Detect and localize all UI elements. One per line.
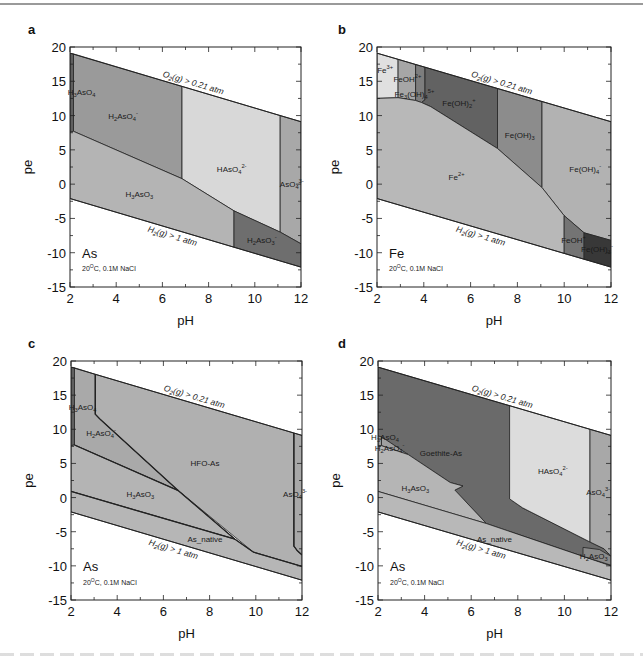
conditions-label: 20OC, 0.1M NaCl: [82, 263, 136, 272]
y-tick-label: 15: [360, 388, 374, 403]
y-tick-label: 5: [60, 456, 67, 471]
region-label: Fe(OH)3: [505, 131, 535, 141]
y-tick-label: -10: [47, 246, 66, 261]
y-tick-label: -5: [361, 211, 373, 226]
panel-label: c: [28, 336, 35, 351]
y-tick-label: 15: [52, 74, 66, 89]
y-axis-label: pe: [20, 160, 35, 174]
y-tick-label: -15: [355, 593, 374, 608]
y-tick-label: -15: [354, 280, 373, 295]
y-tick-label: -5: [55, 525, 67, 540]
y-tick-label: 0: [60, 491, 67, 506]
x-tick-label: 8: [514, 604, 521, 619]
y-tick-label: -10: [354, 246, 373, 261]
region-label: Goethite-As: [420, 449, 462, 458]
y-tick-label: 15: [359, 74, 373, 89]
y-tick-label: 20: [360, 354, 374, 369]
panel-b: bFe3+FeOH2+Fe3(OH)45+Fe(OH)2+Fe(OH)3Fe(O…: [310, 20, 631, 335]
region-label: AsO43-: [283, 488, 307, 500]
region-label: H3AsO3: [125, 190, 153, 200]
x-tick-label: 4: [113, 291, 120, 306]
pourbaix-diagram-a: aH3AsO4H2AsO4-HAsO42-AsO43-H3AsO3H2AsO3-…: [0, 20, 321, 335]
x-tick-label: 6: [467, 291, 474, 306]
y-tick-label: -10: [48, 559, 67, 574]
x-tick-label: 4: [421, 604, 428, 619]
pourbaix-diagram-c: cH3AsO4H2AsO4-HFO-AsAsO43-H3AsO3As_nativ…: [0, 334, 321, 649]
x-tick-label: 2: [373, 291, 380, 306]
y-tick-label: -15: [47, 280, 66, 295]
y-tick-label: 20: [52, 40, 66, 55]
x-axis-label: pH: [178, 626, 195, 641]
y-tick-label: 20: [53, 354, 67, 369]
y-tick-label: 10: [53, 422, 67, 437]
y-tick-label: 0: [59, 177, 66, 192]
x-tick-label: 12: [295, 604, 309, 619]
y-tick-label: 5: [59, 143, 66, 158]
region-label: As_native: [187, 535, 223, 544]
y-tick-label: -15: [48, 593, 67, 608]
region-label: H3AsO3: [401, 484, 429, 494]
y-tick-label: 5: [366, 143, 373, 158]
y-tick-label: -10: [355, 559, 374, 574]
panel-label: a: [28, 22, 36, 37]
element-label: As: [82, 246, 98, 261]
x-tick-label: 2: [66, 291, 73, 306]
conditions-label: 20OC, 0.1M NaCl: [390, 577, 444, 586]
x-tick-label: 2: [67, 604, 74, 619]
top-rule: [0, 3, 643, 5]
panel-d: dGoethite-AsHAsO42-AsO43-H3AsO4H2AsO4-H3…: [310, 334, 631, 649]
pourbaix-diagram-b: bFe3+FeOH2+Fe3(OH)45+Fe(OH)2+Fe(OH)3Fe(O…: [310, 20, 631, 335]
y-tick-label: 10: [52, 109, 66, 124]
x-tick-label: 12: [604, 604, 618, 619]
region-label: HFO-As: [191, 459, 220, 468]
x-tick-label: 8: [205, 291, 212, 306]
region-label: H3AsO4: [68, 88, 97, 98]
y-tick-label: 20: [359, 40, 373, 55]
conditions-label: 20OC, 0.1M NaCl: [389, 263, 443, 272]
y-tick-label: 5: [367, 456, 374, 471]
panel-label: b: [338, 22, 346, 37]
y-tick-label: 0: [367, 491, 374, 506]
x-tick-label: 4: [114, 604, 121, 619]
figure-caption-truncated: [0, 650, 643, 656]
x-tick-label: 2: [374, 604, 381, 619]
x-tick-label: 10: [557, 604, 571, 619]
x-tick-label: 12: [604, 291, 618, 306]
y-axis-label: pe: [328, 473, 343, 487]
x-axis-label: pH: [486, 626, 503, 641]
x-tick-label: 4: [420, 291, 427, 306]
x-tick-label: 10: [248, 291, 262, 306]
panel-c: cH3AsO4H2AsO4-HFO-AsAsO43-H3AsO3As_nativ…: [0, 334, 321, 649]
y-tick-label: 0: [366, 177, 373, 192]
y-axis-label: pe: [21, 473, 36, 487]
y-tick-label: 10: [359, 109, 373, 124]
panel-a: aH3AsO4H2AsO4-HAsO42-AsO43-H3AsO3H2AsO3-…: [0, 20, 321, 335]
x-tick-label: 8: [514, 291, 521, 306]
x-tick-label: 10: [557, 291, 571, 306]
y-tick-label: -5: [362, 525, 374, 540]
x-tick-label: 10: [249, 604, 263, 619]
panel-label: d: [338, 336, 346, 351]
x-tick-label: 6: [468, 604, 475, 619]
region-label: As_native: [477, 535, 513, 544]
region-label: H3AsO4: [371, 433, 400, 443]
y-tick-label: 15: [53, 388, 67, 403]
element-label: As: [390, 559, 406, 574]
x-tick-label: 6: [159, 291, 166, 306]
y-axis-label: pe: [327, 160, 342, 174]
y-tick-label: -5: [54, 211, 66, 226]
pourbaix-diagram-d: dGoethite-AsHAsO42-AsO43-H3AsO4H2AsO4-H3…: [310, 334, 631, 649]
x-axis-label: pH: [177, 313, 194, 328]
x-tick-label: 8: [206, 604, 213, 619]
element-label: As: [83, 559, 99, 574]
element-label: Fe: [389, 246, 404, 261]
region-label: H3AsO4: [69, 403, 98, 413]
y-tick-label: 10: [360, 422, 374, 437]
region-label: H3AsO3: [126, 490, 154, 500]
x-axis-label: pH: [486, 313, 503, 328]
x-tick-label: 12: [294, 291, 308, 306]
x-tick-label: 6: [160, 604, 167, 619]
conditions-label: 20OC, 0.1M NaCl: [83, 577, 137, 586]
